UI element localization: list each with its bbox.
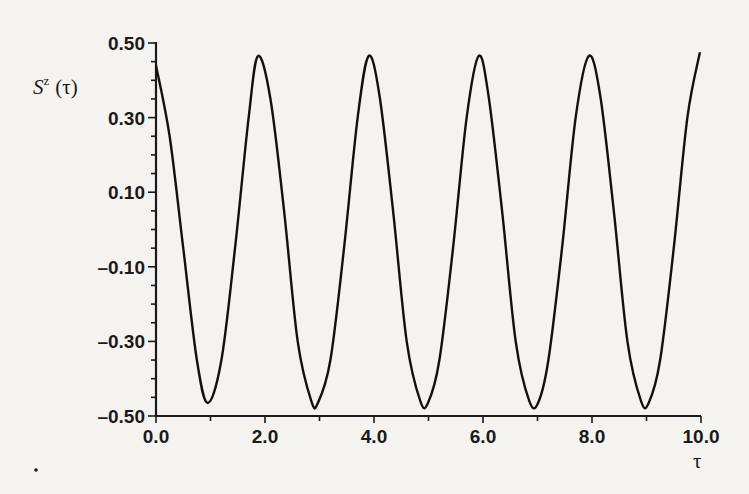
x-tick-label: 4.0 <box>361 426 387 447</box>
y-ticks <box>148 43 156 416</box>
y-tick-labels: 0.500.300.10–0.10–0.30–0.50 <box>97 33 145 427</box>
stray-dot <box>34 468 38 472</box>
y-axis-label: Sz(τ) <box>33 73 78 99</box>
y-tick-label: 0.50 <box>108 33 145 54</box>
y-tick-label: –0.10 <box>97 257 145 278</box>
x-tick-label: 0.0 <box>143 426 169 447</box>
x-tick-label: 10.0 <box>683 426 720 447</box>
sz-curve-line <box>156 52 700 408</box>
x-axis-label: τ <box>693 449 701 473</box>
x-tick-label: 2.0 <box>252 426 278 447</box>
y-tick-label: –0.50 <box>97 406 145 427</box>
y-tick-label: 0.30 <box>108 108 145 129</box>
x-tick-label: 6.0 <box>470 426 496 447</box>
x-tick-labels: 0.02.04.06.08.010.0 <box>143 426 720 447</box>
y-tick-label: –0.30 <box>97 331 145 352</box>
y-tick-label: 0.10 <box>108 182 145 203</box>
chart-plot: 0.500.300.10–0.10–0.30–0.50 0.02.04.06.0… <box>0 0 749 494</box>
x-tick-label: 8.0 <box>579 426 605 447</box>
